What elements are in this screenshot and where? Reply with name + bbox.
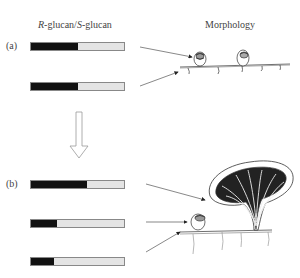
morphology-a-illustration [180,50,290,74]
pointer-arrow-a1 [140,47,192,57]
morphology-b-illustration [180,161,293,254]
pointer-arrow-b3 [146,232,180,252]
pointer-arrow-a2 [140,72,178,86]
transition-arrow-icon [70,112,88,158]
diagram-artwork [0,0,300,278]
pointer-arrow-b1 [146,184,205,200]
